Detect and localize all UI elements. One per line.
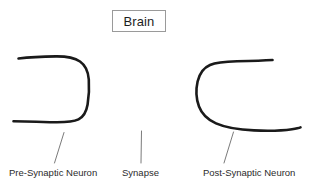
caption-post-synaptic-neuron: Post-Synaptic Neuron xyxy=(203,168,295,178)
post-synaptic-neuron-shape xyxy=(196,60,300,131)
pre-synaptic-neuron-shape xyxy=(14,56,90,122)
caption-synapse: Synapse xyxy=(122,168,159,178)
brain-synapse-diagram: Brain Pre-Synaptic Neuron Synapse Post-S… xyxy=(0,0,312,186)
pre-synaptic-leader-line xyxy=(55,133,65,164)
synapse-leader-line xyxy=(141,131,142,163)
caption-pre-synaptic-neuron: Pre-Synaptic Neuron xyxy=(9,168,97,178)
post-synaptic-leader-line xyxy=(224,132,234,163)
drawing-canvas xyxy=(0,0,312,186)
